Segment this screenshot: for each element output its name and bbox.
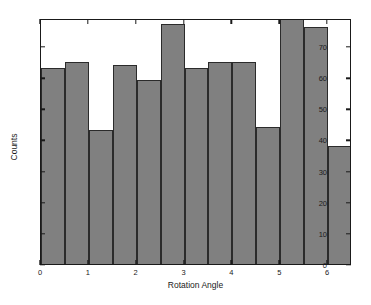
plot-area [40,19,351,265]
y-tick-mark [346,46,351,47]
x-tick-mark [183,260,184,265]
y-tick-label: 30 [319,167,327,176]
y-tick-mark [346,264,351,265]
y-tick-mark [40,233,45,234]
histogram-bar [256,127,280,265]
histogram-bar [280,19,304,265]
x-tick-mark [135,260,136,265]
histogram-bar [137,80,161,265]
x-tick-label: 2 [134,268,138,277]
x-tick-label: 3 [181,268,185,277]
histogram-bar [161,24,185,265]
y-tick-mark [346,140,351,141]
y-tick-mark [346,77,351,78]
histogram-bar [185,68,209,265]
bar-series [41,20,350,264]
x-tick-mark [326,260,327,265]
y-tick-mark [40,202,45,203]
x-tick-mark [39,19,40,24]
y-tick-mark [346,109,351,110]
x-tick-mark [231,260,232,265]
histogram-bar [232,62,256,265]
y-tick-mark [346,233,351,234]
y-tick-label: 40 [319,136,327,145]
y-tick-label: 50 [319,105,327,114]
x-tick-mark [279,260,280,265]
x-tick-mark [183,19,184,24]
x-tick-mark [135,19,136,24]
x-tick-label: 5 [277,268,281,277]
y-axis-title: Counts [9,107,19,187]
y-tick-label: 10 [319,229,327,238]
y-tick-mark [40,46,45,47]
y-tick-label: 70 [319,43,327,52]
x-tick-mark [231,19,232,24]
y-tick-mark [40,109,45,110]
x-tick-label: 4 [229,268,233,277]
x-tick-mark [87,260,88,265]
y-tick-label: 20 [319,198,327,207]
histogram-bar [113,65,137,265]
y-axis [0,0,40,305]
y-tick-mark [40,171,45,172]
y-tick-mark [346,171,351,172]
histogram-bar [208,62,232,265]
histogram-bar [328,146,351,265]
y-tick-mark [346,202,351,203]
x-tick-mark [39,260,40,265]
y-tick-mark [40,77,45,78]
y-tick-label: 60 [319,74,327,83]
x-tick-label: 6 [325,268,329,277]
x-tick-mark [279,19,280,24]
histogram-figure: Rotation Angle Counts 010203040506070012… [0,0,371,305]
x-tick-label: 0 [38,268,42,277]
histogram-bar [65,62,89,265]
histogram-bar [89,130,113,265]
x-tick-label: 1 [86,268,90,277]
y-tick-mark [40,140,45,141]
x-tick-mark [326,19,327,24]
histogram-bar [41,68,65,265]
x-axis-title: Rotation Angle [40,280,351,290]
x-tick-mark [87,19,88,24]
y-tick-mark [40,264,45,265]
